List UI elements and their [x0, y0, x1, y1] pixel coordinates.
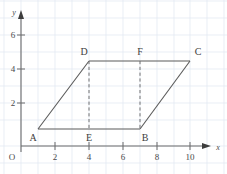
- x-axis-label: x: [215, 143, 220, 152]
- y-tick-label-4: 4: [11, 64, 16, 74]
- point-label-e: E: [86, 132, 92, 143]
- segment-da: [38, 61, 89, 129]
- point-label-a: A: [29, 132, 37, 143]
- origin-label: O: [9, 152, 16, 162]
- x-tick-label-6: 6: [121, 152, 126, 162]
- y-tick-label-2: 2: [11, 98, 16, 108]
- point-label-b: B: [142, 132, 149, 143]
- point-label-c: C: [195, 46, 202, 57]
- segment-bc: [140, 61, 190, 129]
- x-axis: [21, 142, 211, 150]
- parallelogram-outline: [38, 61, 190, 129]
- y-tick-label-6: 6: [11, 30, 16, 40]
- x-tick-label-8: 8: [155, 152, 160, 162]
- x-tick-label-10: 10: [186, 152, 196, 162]
- coordinate-geometry-figure: 2 4 6 8 10 6 4 2 O x y A B C D E F: [0, 0, 227, 174]
- dashed-altitudes: [89, 61, 140, 129]
- x-tick-label-2: 2: [53, 152, 58, 162]
- point-label-d: D: [80, 46, 87, 57]
- background-grid: [0, 0, 227, 174]
- x-tick-label-4: 4: [87, 152, 92, 162]
- y-axis: [17, 10, 25, 152]
- y-axis-label: y: [11, 8, 16, 17]
- point-label-f: F: [137, 46, 143, 57]
